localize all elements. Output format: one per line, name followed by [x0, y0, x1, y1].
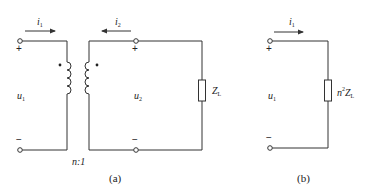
caption-a: (a): [109, 173, 121, 184]
label-voltage-u1: u1: [17, 91, 25, 102]
wire-load-bottom: [138, 101, 202, 150]
wire-secondary-bottom: [89, 94, 134, 150]
label-current-i1: i1: [37, 17, 43, 28]
load-impedance-n2zl: [325, 80, 332, 101]
figure-a-circuit: [18, 31, 206, 152]
load-impedance-zl: [199, 80, 206, 101]
label-current-i2: i2: [115, 17, 121, 28]
primary-coil: [67, 62, 71, 94]
terminal-secondary-bottom: [134, 148, 139, 153]
wire-load-top: [138, 41, 202, 80]
wire-b-bottom: [272, 101, 328, 148]
wire-primary-top: [22, 41, 67, 62]
secondary-coil: [85, 62, 89, 94]
label-minus-secondary: −: [132, 135, 138, 145]
label-turns-ratio: n:1: [72, 157, 85, 167]
wire-b-top: [272, 41, 328, 80]
dot-marker-primary: [59, 64, 62, 67]
circuit-diagram: [0, 0, 370, 192]
label-load-n2zl: n2ZL: [337, 86, 354, 99]
figure-b-circuit: [268, 32, 332, 150]
label-plus-primary: +: [16, 44, 22, 54]
label-minus-primary: −: [16, 135, 22, 145]
label-voltage-u2: u2: [134, 91, 142, 102]
label-load-zl: ZL: [212, 86, 221, 97]
wire-primary-bottom: [22, 94, 67, 150]
label-plus-secondary: +: [132, 44, 138, 54]
caption-b: (b): [297, 173, 310, 184]
dot-marker-secondary: [96, 64, 99, 67]
label-voltage-u1-b: u1: [268, 91, 276, 102]
terminal-b-bottom: [268, 146, 273, 151]
label-minus-b: −: [266, 133, 272, 143]
terminal-primary-bottom: [18, 148, 23, 153]
wire-secondary-top: [89, 41, 134, 62]
label-current-i1-b: i1: [289, 17, 295, 28]
label-plus-b: +: [266, 44, 272, 54]
